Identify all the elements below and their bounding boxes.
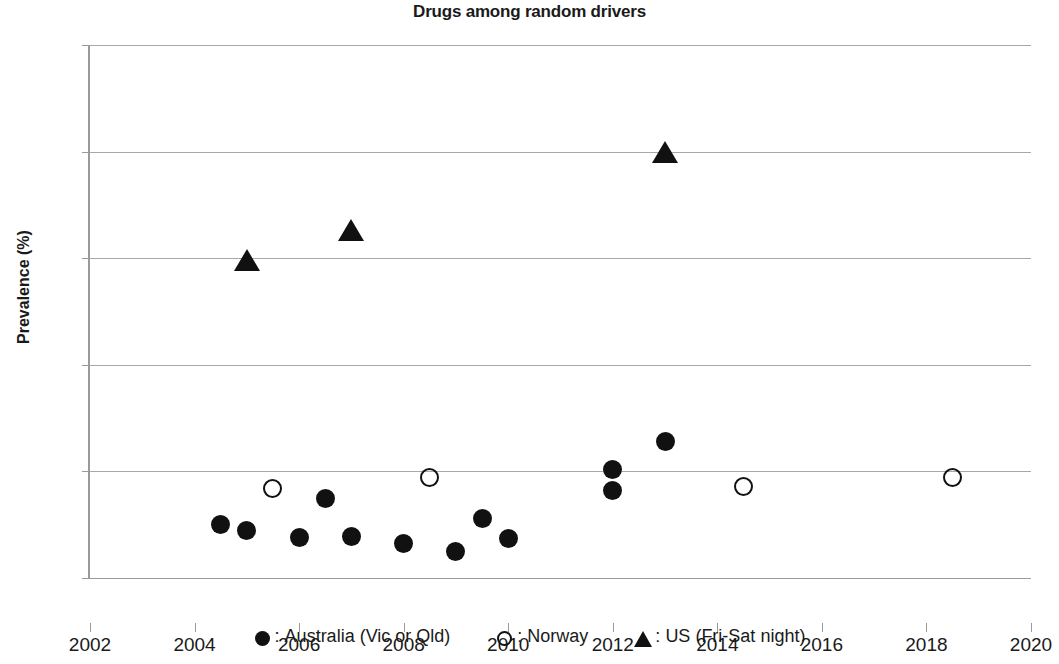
legend-separator: :: [655, 626, 660, 647]
chart-title: Drugs among random drivers: [0, 2, 1059, 22]
legend-entry-1[interactable]: :Norway: [496, 626, 588, 647]
data-point-filled-circle: [237, 521, 256, 540]
legend-label: US (Fri-Sat night): [665, 626, 805, 647]
data-point-filled-circle: [603, 460, 622, 479]
y-axis-title: Prevalence (%): [15, 177, 33, 397]
plot-area: 0510152025 20022004200620082010201220142…: [88, 45, 1029, 578]
data-point-filled-circle: [656, 432, 675, 451]
data-point-filled-circle: [473, 509, 492, 528]
filled-circle-icon: [254, 628, 272, 646]
data-point-filled-circle: [446, 542, 465, 561]
y-tick-mark-15: [82, 258, 90, 259]
gridline-10: [90, 365, 1031, 366]
legend-entry-2[interactable]: :US (Fri-Sat night): [634, 626, 805, 647]
gridline-25: [90, 45, 1031, 46]
open-circle-icon: [496, 628, 514, 646]
data-point-open-circle: [943, 468, 962, 487]
y-tick-mark-10: [82, 365, 90, 366]
data-point-filled-triangle: [652, 141, 678, 163]
data-point-filled-triangle: [338, 219, 364, 241]
chart-legend: :Australia (Vic or Qld):Norway:US (Fri-S…: [0, 626, 1059, 647]
data-point-filled-circle: [394, 534, 413, 553]
data-point-filled-circle: [316, 489, 335, 508]
y-tick-mark-20: [82, 152, 90, 153]
gridline-20: [90, 152, 1031, 153]
data-point-open-circle: [263, 479, 282, 498]
legend-entry-0[interactable]: :Australia (Vic or Qld): [254, 626, 451, 647]
y-tick-mark-0: [82, 578, 90, 579]
filled-triangle-icon: [634, 628, 652, 646]
data-point-filled-triangle: [234, 249, 260, 271]
data-point-filled-circle: [290, 528, 309, 547]
legend-label: Norway: [527, 626, 588, 647]
chart-container: Drugs among random drivers Prevalence (%…: [0, 0, 1059, 664]
data-point-open-circle: [420, 468, 439, 487]
gridline-15: [90, 258, 1031, 259]
data-point-open-circle: [734, 477, 753, 496]
data-point-filled-circle: [342, 527, 361, 546]
legend-separator: :: [517, 626, 522, 647]
y-tick-mark-5: [82, 471, 90, 472]
data-point-filled-circle: [603, 481, 622, 500]
gridline-0: [90, 578, 1031, 579]
data-point-filled-circle: [211, 515, 230, 534]
y-tick-mark-25: [82, 45, 90, 46]
legend-separator: :: [275, 626, 280, 647]
data-point-filled-circle: [499, 529, 518, 548]
gridline-5: [90, 471, 1031, 472]
legend-label: Australia (Vic or Qld): [285, 626, 451, 647]
